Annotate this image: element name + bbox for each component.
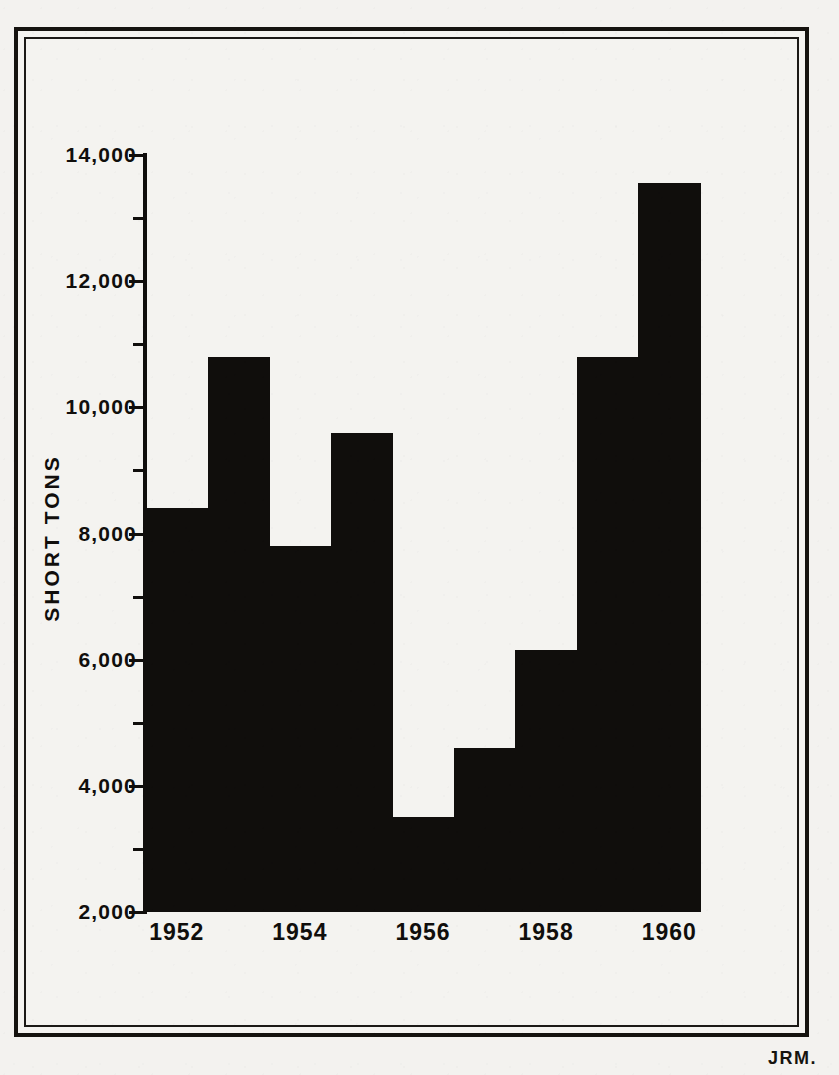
y-minor-tick-3000 [133,848,146,851]
bar-1952 [146,508,208,912]
y-tick-label: 6,000 [78,648,137,672]
y-minor-tick-11000 [133,343,146,346]
bar-1958 [515,650,577,912]
bar-1960 [638,183,700,912]
bar-1954 [269,546,331,912]
bar-1959 [577,357,639,912]
x-tick-label-1956: 1956 [395,919,450,946]
x-tick-label-1954: 1954 [272,919,327,946]
y-minor-tick-7000 [133,596,146,599]
bar-1955 [331,433,393,912]
bar-1953 [208,357,270,912]
y-tick-label: 8,000 [78,522,137,546]
figure-plate: SHORT TONS 14,00012,00010,0008,0006,0004… [0,0,839,1075]
plot-area [146,155,700,912]
y-axis-title: SHORT TONS [40,454,64,621]
y-tick-label: 2,000 [78,900,137,924]
y-minor-tick-9000 [133,469,146,472]
y-tick-label: 12,000 [66,269,137,293]
x-tick-label-1958: 1958 [519,919,574,946]
y-minor-tick-5000 [133,722,146,725]
artist-signature: JRM. [768,1048,817,1069]
y-tick-label: 4,000 [78,774,137,798]
bar-1956 [392,817,454,912]
y-minor-tick-13000 [133,217,146,220]
x-tick-label-1960: 1960 [642,919,697,946]
bar-1957 [454,748,516,912]
x-tick-label-1952: 1952 [149,919,204,946]
bar-chart: SHORT TONS 14,00012,00010,0008,0006,0004… [0,0,839,1075]
y-tick-label: 14,000 [66,143,137,167]
y-tick-label: 10,000 [66,395,137,419]
